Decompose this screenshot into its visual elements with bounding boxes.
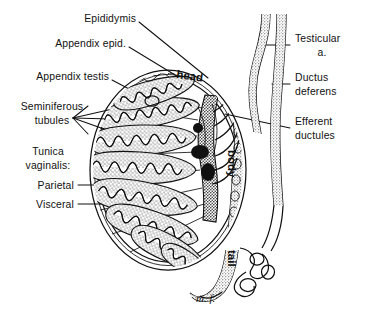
label-testicular-a-line2: a. bbox=[318, 47, 327, 58]
label-appendix-epid: Appendix epid. bbox=[55, 38, 126, 49]
anatomical-figure: head body tail Epididymis Appendix epid.… bbox=[0, 0, 368, 328]
label-seminiferous-line2: tubules bbox=[35, 115, 70, 126]
label-efferent-line2: ductules bbox=[295, 130, 335, 141]
label-tunica-line2: vaginalis: bbox=[26, 160, 71, 171]
label-visceral: Visceral bbox=[36, 199, 74, 210]
label-seminiferous-line1: Seminiferous bbox=[21, 101, 83, 112]
embedded-label-body: body bbox=[226, 150, 238, 178]
label-parietal: Parietal bbox=[38, 180, 74, 191]
label-appendix-testis: Appendix testis bbox=[36, 71, 109, 82]
label-tunica-line1: Tunica bbox=[32, 146, 64, 157]
label-epididymis: Epididymis bbox=[84, 13, 136, 24]
label-ductus-line2: deferens bbox=[295, 86, 337, 97]
artist-signature: m. f. bbox=[196, 292, 215, 304]
label-efferent-line1: Efferent bbox=[295, 116, 332, 127]
label-testicular-a-line1: Testicular bbox=[295, 33, 341, 44]
label-ductus-line1: Ductus bbox=[295, 72, 328, 83]
embedded-label-tail: tail bbox=[226, 250, 238, 267]
testis-diagram-svg: head body tail Epididymis Appendix epid.… bbox=[0, 0, 368, 328]
